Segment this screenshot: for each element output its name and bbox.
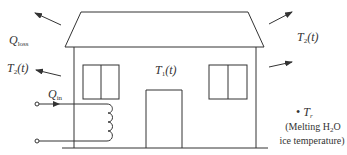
tr-note-line1: (Melting H2O (277, 122, 347, 134)
t1-label: T1(t) (155, 64, 177, 78)
roof (65, 12, 264, 47)
t2-left-label: T2(t) (7, 62, 29, 76)
tr-note-line2: ice temperature) (274, 136, 347, 146)
door (146, 90, 182, 148)
t2-arrow-left (36, 70, 61, 76)
q-loss-label: Qloss (9, 34, 29, 48)
t2-right-label: T2(t) (297, 31, 319, 45)
tr-label: • Tr (296, 106, 313, 120)
heat-arrow-right (269, 62, 292, 67)
tr-bullet: • (296, 105, 300, 119)
input-terminal-top (35, 102, 39, 106)
q-in-label: Qin (48, 88, 62, 102)
heat-arrow-upper-right (269, 12, 292, 24)
q-loss-arrow-upper-left (35, 13, 61, 25)
heating-coil (107, 104, 113, 141)
input-terminal-bottom (35, 139, 39, 143)
